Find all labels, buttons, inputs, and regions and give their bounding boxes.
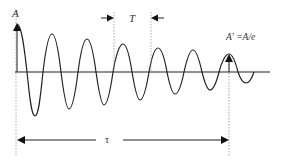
period-label: T — [129, 12, 136, 24]
decayed-amplitude-marker — [225, 54, 233, 72]
left-arrow-icon — [17, 136, 25, 144]
amplitude-label: A — [11, 7, 19, 19]
right-arrow-icon — [107, 15, 114, 22]
period-arrow-right — [151, 15, 164, 22]
decay-time-label: τ — [105, 134, 109, 145]
damped-oscillation-diagram: A T A' =A/e τ — [0, 0, 281, 161]
damped-wave-curve — [17, 24, 254, 116]
right-arrow-icon — [221, 136, 229, 144]
period-arrow-left — [101, 15, 114, 22]
amplitude-marker — [13, 23, 21, 72]
left-arrow-icon — [151, 15, 158, 22]
decayed-amplitude-label: A' =A/e — [225, 32, 255, 42]
decay-time-arrow — [17, 136, 229, 144]
